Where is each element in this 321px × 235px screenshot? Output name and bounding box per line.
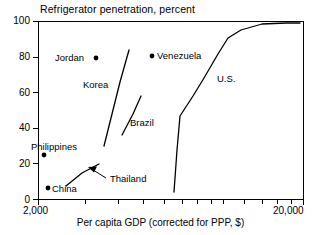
- data-point-china: [46, 186, 51, 191]
- chart-plot-area: [0, 0, 321, 235]
- series-label-brazil: Brazil: [130, 118, 154, 128]
- data-point-philippines: [42, 153, 47, 158]
- y-tick-label-0: 0: [0, 195, 30, 205]
- series-label-us: U.S.: [217, 74, 235, 84]
- series-label-china: China: [52, 184, 77, 194]
- data-point-venezuela: [150, 54, 155, 59]
- y-tick-label-40: 40: [0, 123, 30, 133]
- series-label-jordan: Jordan: [55, 53, 84, 63]
- y-tick-label-60: 60: [0, 88, 30, 98]
- series-label-thailand: Thailand: [110, 174, 146, 184]
- y-tick-label-20: 20: [0, 159, 30, 169]
- series-line-brazil: [122, 96, 141, 135]
- data-point-jordan: [94, 56, 99, 61]
- series-label-venezuela: Venezuela: [157, 51, 201, 61]
- x-axis-title: Per capita GDP (corrected for PPP, $): [0, 217, 321, 228]
- x-tick-marks: [39, 200, 304, 205]
- chart-figure: Refrigerator penetration, percent: [0, 0, 321, 235]
- x-tick-label-min: 2,000: [23, 206, 48, 216]
- x-tick-label-max: 20,000: [273, 206, 304, 216]
- y-tick-label-80: 80: [0, 52, 30, 62]
- series-label-philippines: Philippines: [31, 142, 77, 152]
- y-tick-label-100: 100: [0, 16, 30, 26]
- y-tick-marks: [33, 22, 39, 200]
- axis-frame: [39, 22, 304, 200]
- series-label-korea: Korea: [83, 80, 108, 90]
- series-line-us: [174, 23, 300, 192]
- series-line-korea: [104, 50, 129, 146]
